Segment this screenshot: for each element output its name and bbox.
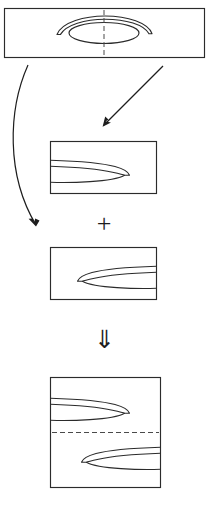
central-ellipse-icon bbox=[69, 23, 139, 44]
straight-arrow-diagonal-line bbox=[104, 66, 163, 125]
plus-operator-glyph: + bbox=[97, 209, 112, 238]
straight-arrow-diagonal-head bbox=[103, 117, 111, 127]
panel-component-b-frame bbox=[51, 248, 157, 300]
straight-arrow-diagonal bbox=[103, 66, 163, 127]
panel-component-a-frame bbox=[51, 142, 157, 194]
curved-arrow-left-line bbox=[13, 65, 36, 225]
curved-arrow-left bbox=[13, 65, 39, 227]
panel-source bbox=[5, 9, 205, 58]
curved-arrow-left-head bbox=[29, 219, 40, 227]
panel-component-b bbox=[51, 248, 157, 300]
panel-component-a bbox=[51, 142, 157, 194]
implies-operator-glyph: ⇓ bbox=[94, 326, 115, 353]
decomposition-figure: + ⇓ bbox=[0, 0, 209, 516]
panel-result bbox=[51, 378, 161, 488]
